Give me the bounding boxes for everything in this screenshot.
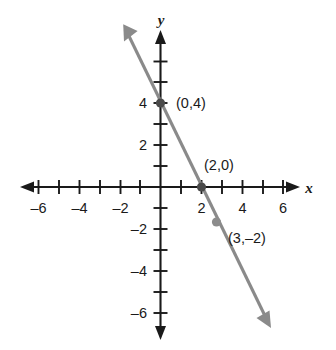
y-axis-label: y: [156, 12, 165, 28]
y-tick-label: –6: [131, 305, 147, 321]
y-axis-top-arrowhead: [155, 30, 166, 44]
y-axis-bottom-arrowhead: [155, 326, 166, 340]
y-tick-label: –2: [131, 221, 147, 237]
x-axis-left-arrowhead: [20, 182, 34, 193]
coordinate-graph: –6 –4 –2 2 4 6 4 2 –2 –4 –6 x y (0,4) (2…: [0, 0, 336, 350]
y-tick-label: 4: [139, 95, 147, 111]
data-point-2-0[interactable]: [197, 182, 206, 191]
x-axis-label: x: [304, 180, 313, 196]
graph-canvas: –6 –4 –2 2 4 6 4 2 –2 –4 –6 x y (0,4) (2…: [0, 0, 336, 350]
linear-function-line: [127, 32, 267, 320]
axis-group: [20, 30, 300, 340]
x-tick-label: –4: [71, 200, 87, 216]
x-tick-label: –6: [30, 200, 46, 216]
y-tick-label: 2: [139, 137, 147, 153]
x-tick-label: 2: [197, 200, 205, 216]
point-annotation-3-minus2: (3,–2): [228, 230, 266, 246]
x-axis-right-arrowhead: [286, 182, 300, 193]
x-tick-label: –2: [112, 200, 128, 216]
data-point-0-4[interactable]: [156, 98, 165, 107]
x-tick-label: 4: [238, 200, 246, 216]
y-tick-label: –4: [131, 263, 147, 279]
point-annotation-0-4: (0,4): [176, 95, 206, 111]
y-tick-labels: 4 2 –2 –4 –6: [131, 95, 147, 321]
data-point-3-minus2[interactable]: [212, 217, 221, 226]
point-annotation-2-0: (2,0): [204, 157, 234, 173]
x-tick-label: 6: [279, 200, 287, 216]
plotted-line-group: [123, 24, 271, 328]
